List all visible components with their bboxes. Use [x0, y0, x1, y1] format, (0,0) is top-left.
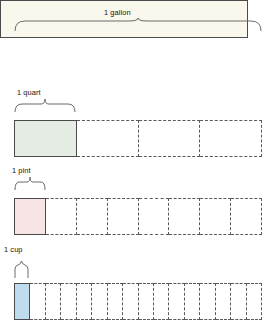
quart-bar: [14, 120, 262, 157]
cup-cell: [46, 283, 61, 320]
cup-cell: [139, 283, 154, 320]
pint-cell-filled: [14, 198, 46, 235]
quart-cell: [139, 120, 201, 157]
cup-cell: [30, 283, 45, 320]
cup-cell: [123, 283, 138, 320]
label-pint: 1 pint: [12, 166, 31, 175]
quart-cell: [200, 120, 262, 157]
pint-cell: [139, 198, 170, 235]
cup-cell: [108, 283, 123, 320]
quart-cell-filled: [14, 120, 77, 157]
pint-cell: [231, 198, 262, 235]
cup-bar: [14, 283, 262, 320]
brace-cup-icon: [14, 261, 30, 279]
cup-cell: [169, 283, 184, 320]
cup-cell: [247, 283, 262, 320]
cup-cell: [185, 283, 200, 320]
cup-cell: [61, 283, 76, 320]
pint-cell: [169, 198, 200, 235]
row-gallon: 1 gallon: [0, 0, 274, 85]
pint-cell: [108, 198, 139, 235]
row-pint: 1 pint: [0, 163, 274, 241]
volume-equivalence-diagram: 1 gallon 1 quart 1 pint: [0, 0, 274, 325]
pint-cell: [200, 198, 231, 235]
pint-bar: [14, 198, 262, 235]
cup-cell: [231, 283, 246, 320]
cup-cell: [77, 283, 92, 320]
cup-cell: [200, 283, 215, 320]
row-cup: 1 cup: [0, 241, 274, 325]
cup-cell: [92, 283, 107, 320]
quart-cell: [77, 120, 139, 157]
pint-cell: [77, 198, 108, 235]
row-quart: 1 quart: [0, 85, 274, 163]
label-quart: 1 quart: [17, 88, 41, 97]
label-gallon: 1 gallon: [104, 8, 131, 17]
brace-gallon-icon: [14, 18, 262, 32]
cup-cell: [154, 283, 169, 320]
cup-cell-filled: [14, 283, 30, 320]
pint-cell: [46, 198, 77, 235]
cup-cell: [216, 283, 231, 320]
brace-quart-icon: [14, 99, 76, 113]
brace-pint-icon: [14, 177, 46, 191]
label-cup: 1 cup: [4, 245, 23, 254]
